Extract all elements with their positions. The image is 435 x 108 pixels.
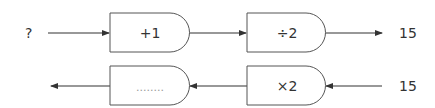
function-machine-diagram (0, 0, 435, 108)
step-times2-label: ×2 (247, 78, 327, 94)
step-div2-label: ÷2 (247, 25, 327, 41)
blank-step-placeholder: ........ (110, 80, 190, 96)
top-input-label: ? (25, 25, 32, 41)
top-output-label: 15 (399, 25, 417, 41)
step-plus1-label: +1 (110, 25, 190, 41)
bottom-input-label: 15 (399, 78, 417, 94)
